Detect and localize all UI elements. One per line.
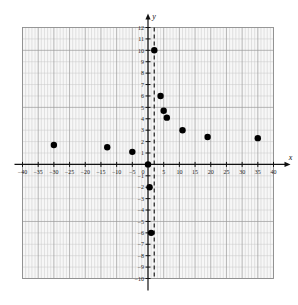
y-axis-tick-label: 9 [141, 59, 144, 65]
y-axis-tick-label: 5 [141, 105, 144, 111]
y-axis-tick-label: 8 [141, 70, 144, 76]
x-axis-tick-label: 25 [223, 169, 229, 175]
data-point [255, 135, 261, 141]
data-point [146, 184, 152, 190]
y-axis-tick-label: 7 [141, 82, 144, 88]
x-axis-tick-label: −30 [49, 169, 58, 175]
y-axis-tick-label: −6 [138, 230, 144, 236]
x-axis-tick-label: 30 [239, 169, 245, 175]
y-axis-tick-label: 2 [141, 139, 144, 145]
data-point [151, 47, 157, 53]
y-axis-tick-label: −7 [138, 241, 144, 247]
data-point [129, 149, 135, 155]
y-axis-tick-label: −8 [138, 253, 144, 259]
y-axis-tick-label: −3 [138, 196, 144, 202]
y-axis-arrow [145, 14, 150, 20]
y-axis-tick-label: 10 [138, 48, 144, 54]
x-axis-tick-label: 10 [176, 169, 182, 175]
y-axis-tick-label: 6 [141, 93, 144, 99]
x-axis-tick-label: 20 [208, 169, 214, 175]
x-axis-tick-label: −40 [18, 169, 27, 175]
data-point [51, 142, 57, 148]
x-axis-tick-label: −15 [96, 169, 105, 175]
x-axis-tick-label: 40 [271, 169, 277, 175]
data-point [157, 93, 163, 99]
x-axis-tick-label: 5 [162, 169, 165, 175]
y-axis-tick-label: −4 [138, 207, 144, 213]
y-axis-tick-label: −2 [138, 184, 144, 190]
data-point [148, 230, 154, 236]
data-point [145, 161, 151, 167]
data-point [104, 144, 110, 150]
origin-label: 0 [142, 169, 145, 175]
x-axis-tick-label: −5 [129, 169, 135, 175]
x-axis-tick-label: −35 [33, 169, 42, 175]
data-point [160, 108, 166, 114]
y-axis-tick-label: 1 [141, 150, 144, 156]
y-axis-tick-label: 11 [138, 36, 144, 42]
x-axis-tick-label: −25 [65, 169, 74, 175]
scatter-plot-figure: xy−40−35−30−25−20−15−10−5510152025303540… [0, 0, 298, 305]
y-axis-tick-label: 4 [141, 116, 144, 122]
y-axis-tick-label: 12 [138, 25, 144, 31]
y-axis-tick-label: −10 [135, 276, 144, 282]
data-point [164, 114, 170, 120]
y-axis-label: y [151, 12, 156, 21]
y-axis-tick-label: −5 [138, 219, 144, 225]
coordinate-plane: xy−40−35−30−25−20−15−10−5510152025303540… [0, 0, 298, 305]
x-axis-tick-label: 35 [255, 169, 261, 175]
x-axis-tick-label: −20 [81, 169, 90, 175]
x-axis-tick-label: −10 [112, 169, 121, 175]
y-axis-tick-label: −9 [138, 264, 144, 270]
x-axis-label: x [288, 153, 293, 162]
x-axis-tick-label: 15 [192, 169, 198, 175]
x-axis-arrow [285, 162, 291, 167]
y-axis-tick-label: 3 [141, 127, 144, 133]
data-point [204, 134, 210, 140]
data-point [179, 127, 185, 133]
